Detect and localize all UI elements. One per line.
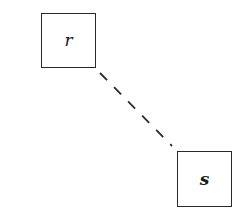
node-r: r [41,13,96,68]
diagram-canvas: r s [0,0,244,217]
node-s: s [177,151,232,207]
dashed-edge-r-s [100,73,172,146]
node-r-label: r [64,32,72,49]
node-s-label: s [200,171,210,188]
